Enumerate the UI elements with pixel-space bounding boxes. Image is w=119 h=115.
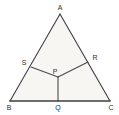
geometry-figure: A B C S R P Q: [0, 0, 119, 115]
vertex-label-b: B: [7, 104, 12, 111]
vertex-label-r: R: [92, 54, 97, 61]
vertex-label-q: Q: [55, 104, 60, 111]
vertex-label-p: P: [53, 68, 58, 75]
geometry-canvas: [0, 0, 119, 115]
vertex-label-c: C: [108, 104, 113, 111]
vertex-label-s: S: [22, 59, 27, 66]
vertex-label-a: A: [58, 4, 63, 11]
